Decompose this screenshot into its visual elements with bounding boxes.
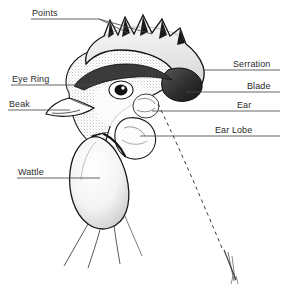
label-points: Points [32, 8, 58, 18]
ear [133, 94, 159, 118]
label-eye-ring: Eye Ring [12, 74, 49, 84]
rooster-head-diagram: Points Eye Ring Beak Wattle Serration Bl… [0, 0, 282, 289]
feather-tip [224, 250, 238, 284]
ear-lobe [115, 118, 156, 159]
label-ear-lobe: Ear Lobe [215, 125, 252, 135]
rooster-head-illustration [0, 0, 282, 289]
label-wattle: Wattle [18, 167, 44, 177]
label-blade: Blade [247, 81, 271, 91]
label-ear: Ear [237, 100, 251, 110]
label-serration: Serration [233, 59, 270, 69]
label-beak: Beak [9, 99, 30, 109]
wattle [70, 132, 129, 229]
